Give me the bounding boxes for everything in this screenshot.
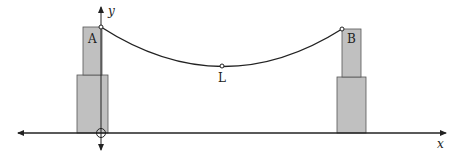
point-b (340, 27, 344, 31)
point-a (99, 25, 103, 29)
label-b: B (347, 32, 356, 46)
label-a: A (87, 32, 97, 46)
label-x-axis: x (437, 137, 444, 151)
cable-curve (101, 27, 342, 67)
label-l: L (218, 71, 226, 85)
label-y-axis: y (107, 4, 115, 18)
cable-diagram: A B L y x (0, 0, 455, 155)
tower-b-base (337, 77, 366, 133)
point-l (220, 64, 224, 68)
tower-a-base (77, 75, 108, 133)
